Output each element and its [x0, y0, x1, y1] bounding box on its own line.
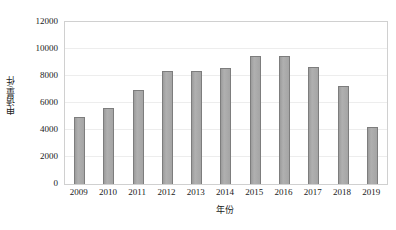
x-axis-title-label: 年份: [216, 205, 234, 215]
bar: [162, 71, 173, 184]
y-tick-label: 4000: [40, 125, 58, 134]
bar: [74, 117, 85, 185]
y-tick-label: 6000: [40, 98, 58, 107]
bar: [191, 71, 202, 184]
x-tick-label: 2010: [93, 186, 122, 198]
bars-layer: [65, 22, 387, 184]
y-tick-label: 0: [54, 179, 59, 188]
x-tick-label: 2014: [210, 186, 239, 198]
x-tick-label: 2011: [123, 186, 152, 198]
bar: [133, 90, 144, 184]
bar-slot: [124, 22, 153, 184]
x-axis-title: 年份: [64, 203, 386, 216]
y-tick-label: 10000: [36, 44, 59, 53]
bar-slot: [328, 22, 357, 184]
bar: [103, 108, 114, 184]
bar-slot: [358, 22, 387, 184]
bar: [279, 56, 290, 184]
x-tick-label: 2013: [181, 186, 210, 198]
bar-slot: [182, 22, 211, 184]
x-tick-label: 2018: [327, 186, 356, 198]
x-tick-label: 2009: [64, 186, 93, 198]
y-axis-tick-labels: 12000 10000 8000 6000 4000 2000 0: [14, 14, 62, 190]
x-axis-tick-labels: 2009 2010 2011 2012 2013 2014 2015 2016 …: [64, 186, 386, 202]
x-tick-label: 2016: [269, 186, 298, 198]
bar-slot: [94, 22, 123, 184]
x-tick-label: 2019: [357, 186, 386, 198]
bar-slot: [211, 22, 240, 184]
bar-slot: [241, 22, 270, 184]
bar: [220, 68, 231, 184]
bar-slot: [153, 22, 182, 184]
x-tick-label: 2015: [240, 186, 269, 198]
bar-slot: [65, 22, 94, 184]
x-tick-label: 2017: [298, 186, 327, 198]
plot-area: [64, 21, 388, 185]
bar-chart-figure: 申请量/件 12000 10000 8000 6000 4000 2000 0 …: [0, 0, 396, 230]
bar: [367, 127, 378, 184]
bar: [250, 56, 261, 184]
bar: [308, 67, 319, 184]
bar-slot: [270, 22, 299, 184]
x-tick-label: 2012: [152, 186, 181, 198]
y-tick-label: 12000: [36, 17, 59, 26]
bar-slot: [299, 22, 328, 184]
bar: [338, 86, 349, 184]
y-tick-label: 2000: [40, 152, 58, 161]
y-tick-label: 8000: [40, 71, 58, 80]
